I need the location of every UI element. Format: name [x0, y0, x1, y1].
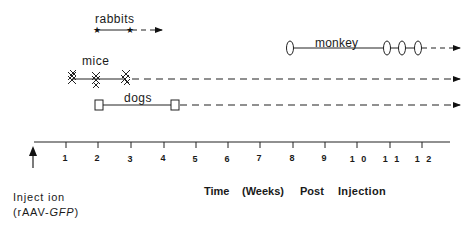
- oval-marker-icon: [415, 41, 422, 55]
- oval-marker-icon: [384, 41, 391, 55]
- tick-label: 9: [321, 153, 328, 163]
- rabbits-timeline: ★ ★: [93, 25, 162, 35]
- oval-marker-icon: [287, 41, 294, 55]
- tick-label: 5: [192, 154, 199, 164]
- tick-label: 8: [289, 153, 296, 163]
- x-axis-label-time: Time: [204, 185, 229, 197]
- tick-label: 1: [62, 153, 69, 163]
- injection-vector-gene: GFP: [49, 206, 74, 218]
- cross-cluster-icon: [68, 70, 76, 84]
- rabbits-label: rabbits: [95, 12, 135, 26]
- x-axis-label-post: Post: [300, 185, 324, 197]
- tick-label: 1 0: [350, 154, 369, 164]
- tick-label: 7: [256, 153, 263, 163]
- star-icon: ★: [93, 25, 101, 35]
- x-axis-label-injection: Injection: [338, 185, 386, 197]
- dogs-label: dogs: [124, 91, 152, 105]
- mice-label: mice: [82, 54, 109, 68]
- tick-label: 1 1: [383, 154, 402, 164]
- injection-label-line1: Inject ion: [13, 190, 79, 205]
- oval-marker-icon: [399, 41, 406, 55]
- monkey-timeline: [287, 41, 461, 55]
- tick-label: 3: [127, 154, 134, 164]
- square-marker-icon: [171, 100, 179, 110]
- injection-vector-suffix: ): [74, 206, 78, 218]
- tick-label: 4: [160, 153, 167, 163]
- time-axis: [34, 142, 450, 148]
- mice-timeline: [68, 70, 460, 88]
- tick-label: 2: [94, 153, 101, 163]
- tick-label: 1 2: [415, 154, 434, 164]
- tick-label: 6: [224, 154, 231, 164]
- injection-label: Inject ion (rAAV-GFP): [13, 190, 79, 220]
- injection-arrow-icon: [29, 146, 37, 168]
- monkey-label: monkey: [315, 36, 358, 50]
- injection-label-line2: (rAAV-GFP): [13, 205, 79, 220]
- square-marker-icon: [95, 100, 103, 110]
- cross-cluster-icon: [92, 72, 100, 88]
- cross-cluster-icon: [121, 70, 130, 85]
- injection-vector-prefix: (rAAV-: [13, 206, 49, 218]
- x-axis-label-weeks: (Weeks): [242, 185, 284, 197]
- star-icon: ★: [126, 25, 134, 35]
